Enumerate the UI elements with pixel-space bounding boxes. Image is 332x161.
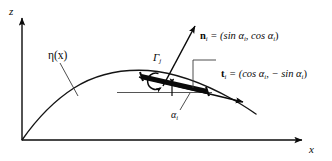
angle-label: αi: [171, 110, 178, 121]
circulation-subscript: j: [159, 57, 161, 65]
tangent-equation-start: = (cos α: [226, 68, 264, 79]
tangent-equation-mid: , − sin α: [266, 68, 301, 79]
normal-equation-start: = (sin α: [208, 30, 244, 41]
free-surface-label: η(x): [48, 50, 67, 62]
x-axis-label: x: [309, 144, 314, 155]
normal-equation-end: ): [275, 30, 279, 41]
panel-geometry-figure: z x η(x) Γj ni = (sin αi, cos αi) ti = (…: [0, 0, 332, 161]
normal-vector-label: ni = (sin αi, cos αi): [200, 31, 279, 43]
z-axis-label: z: [9, 6, 13, 17]
normal-vector-arrow: [163, 26, 195, 86]
angle-leader-line: [180, 93, 190, 110]
circulation-label: Γj: [153, 52, 161, 65]
tangent-equation-end: ): [303, 68, 307, 79]
angle-subscript: i: [176, 114, 178, 121]
vortex-panel-element: [141, 77, 207, 92]
panel-end-tick: [206, 87, 209, 96]
tangent-label-leader: [193, 60, 216, 88]
normal-equation-mid: , cos α: [246, 30, 273, 41]
panel-start-tick: [140, 72, 143, 81]
tangent-vector-label: ti = (cos αi, − sin αi): [221, 69, 307, 81]
free-surface-curve: [22, 70, 256, 140]
